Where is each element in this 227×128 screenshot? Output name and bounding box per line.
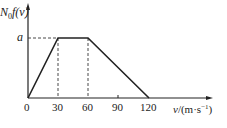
- y-axis-label: N0f(v): [0, 5, 29, 21]
- tick-label-30: 30: [52, 101, 64, 113]
- tick-label-0: 0: [24, 101, 30, 113]
- tick-label-120: 120: [140, 101, 157, 113]
- tick-label-90: 90: [112, 101, 124, 113]
- x-axis-label: v/(m·s−1): [173, 103, 213, 116]
- a-label: a: [17, 30, 23, 44]
- chart-canvas: N0f(v) a 0 30 60 90 120 v/(m·s−1): [0, 0, 227, 128]
- tick-label-60: 60: [82, 101, 94, 113]
- x-axis-arrow-icon: [206, 96, 213, 100]
- distribution-curve: [28, 38, 149, 98]
